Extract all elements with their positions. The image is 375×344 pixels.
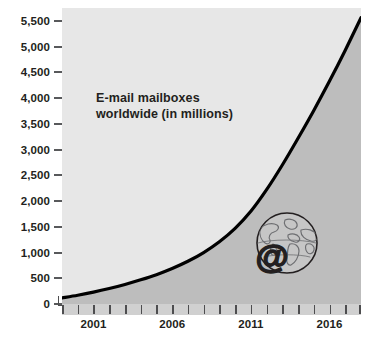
x-axis-tick-mark [251, 305, 253, 314]
y-axis-tick-label: 5,500 [21, 14, 50, 28]
y-axis-tick-mark [54, 20, 62, 22]
y-axis-tick-label: 1,500 [21, 220, 50, 234]
x-axis-tick-mark [267, 305, 269, 314]
y-axis-tick-label: 2,500 [21, 168, 50, 182]
email-mailboxes-area-chart: 5,5005,0004,5004,0003,5003,0002,5002,000… [0, 0, 375, 344]
y-axis-tick-mark [54, 174, 62, 176]
globe-with-at-symbol-icon: @ [252, 211, 320, 279]
y-axis-tick-label: 5,000 [21, 40, 50, 54]
y-axis-tick-label: 3,500 [21, 117, 50, 131]
x-axis-tick-mark [93, 305, 95, 314]
y-axis: 5,5005,0004,5004,0003,5003,0002,5002,000… [0, 8, 62, 304]
y-axis-tick-mark [54, 123, 62, 125]
x-axis-tick-label: 2016 [317, 318, 343, 330]
x-axis: 2001200620112016 [62, 304, 361, 344]
y-axis-tick-mark [54, 200, 62, 202]
x-axis-tick-mark [345, 305, 347, 314]
x-axis-tick-mark [235, 305, 237, 314]
y-axis-tick-label: 2,000 [21, 194, 50, 208]
x-axis-tick-mark [125, 305, 127, 314]
svg-text:@: @ [255, 237, 288, 275]
x-tick-strip [62, 304, 361, 315]
y-axis-tick-label: 4,500 [21, 65, 50, 79]
x-axis-tick-mark [62, 305, 64, 314]
y-axis-tick-mark [54, 277, 62, 279]
x-axis-tick-mark [219, 305, 221, 314]
x-axis-tick-mark [359, 305, 361, 314]
x-axis-tick-label: 2011 [238, 318, 263, 330]
y-axis-tick-label: 1,000 [21, 246, 50, 260]
x-axis-tick-mark [78, 305, 80, 314]
at-symbol: @ [255, 237, 288, 275]
x-axis-tick-mark [188, 305, 190, 314]
x-axis-tick-label: 2006 [159, 318, 185, 330]
y-axis-tick-mark [54, 97, 62, 99]
y-axis-tick-mark [54, 46, 62, 48]
x-axis-tick-mark [282, 305, 284, 314]
x-axis-tick-mark [109, 305, 111, 314]
x-axis-tick-mark [298, 305, 300, 314]
x-axis-tick-label: 2001 [80, 318, 106, 330]
x-axis-tick-mark [141, 305, 143, 314]
chart-annotation-label: E-mail mailboxes worldwide (in millions) [96, 90, 233, 122]
y-axis-tick-label: 3,000 [21, 143, 50, 157]
y-axis-tick-label: 500 [31, 271, 51, 285]
y-axis-tick-label: 0 [44, 297, 51, 311]
x-axis-tick-mark [204, 305, 206, 314]
x-axis-tick-mark [172, 305, 174, 314]
x-axis-tick-mark [314, 305, 316, 314]
y-axis-tick-label: 4,000 [21, 91, 50, 105]
y-axis-tick-mark [54, 226, 62, 228]
x-axis-tick-mark [330, 305, 332, 314]
y-axis-tick-mark [54, 71, 62, 73]
y-axis-tick-mark [54, 149, 62, 151]
x-axis-tick-mark [156, 305, 158, 314]
y-axis-tick-mark [54, 252, 62, 254]
